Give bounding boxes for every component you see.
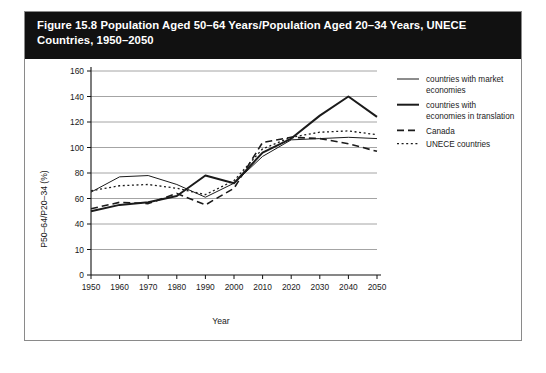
- y-tick-label: 60: [75, 194, 85, 204]
- y-tick-label: 160: [70, 66, 84, 76]
- figure-title-bar: Figure 15.8 Population Aged 50–64 Years/…: [25, 12, 521, 59]
- data-series-group: [91, 97, 377, 212]
- x-axis-ticks: 1950196019701980199020002010202020302040…: [82, 275, 387, 292]
- x-tick-label: 2000: [225, 282, 244, 292]
- x-tick-label: 2010: [253, 282, 272, 292]
- legend-label-3: UNECE countries: [426, 140, 490, 149]
- x-tick-label: 1980: [167, 282, 186, 292]
- legend-label-1: countries with: [426, 101, 477, 110]
- legend-label-0-line-2: economies: [426, 86, 466, 95]
- x-tick-label: 1990: [196, 282, 215, 292]
- y-tick-label: 40: [75, 219, 85, 229]
- legend-label-1-line-2: economies in translation: [426, 112, 515, 121]
- x-tick-label: 2050: [368, 282, 387, 292]
- axis-lines: [91, 67, 381, 275]
- x-tick-label: 2040: [339, 282, 358, 292]
- series-line-1: [91, 97, 377, 212]
- y-gridlines: [91, 71, 377, 250]
- chart-plot-area: 010406080100120140160 195019601970198019…: [25, 59, 521, 340]
- figure-title-line-2: Countries, 1950–2050: [37, 33, 509, 48]
- y-axis-title: P50–64/P20–34 (%): [39, 170, 49, 248]
- y-axis-ticks: 010406080100120140160: [70, 66, 91, 280]
- chart-legend: countries with marketeconomiescountries …: [397, 75, 515, 149]
- y-tick-label: 140: [70, 92, 84, 102]
- x-tick-label: 1950: [82, 282, 101, 292]
- y-tick-label: 10: [75, 245, 85, 255]
- legend-label-0: countries with market: [426, 75, 504, 84]
- x-axis-title: Year: [212, 316, 230, 326]
- y-tick-label: 0: [79, 270, 84, 280]
- x-tick-label: 2030: [310, 282, 329, 292]
- x-tick-label: 1970: [139, 282, 158, 292]
- y-tick-label: 120: [70, 117, 84, 127]
- x-tick-label: 1960: [110, 282, 129, 292]
- figure-title-line-1: Figure 15.8 Population Aged 50–64 Years/…: [37, 18, 509, 33]
- x-tick-label: 2020: [282, 282, 301, 292]
- legend-label-2: Canada: [426, 127, 455, 136]
- series-line-0: [91, 137, 377, 197]
- y-tick-label: 80: [75, 168, 85, 178]
- line-chart: 010406080100120140160 195019601970198019…: [25, 59, 521, 340]
- figure-root: Figure 15.8 Population Aged 50–64 Years/…: [0, 0, 546, 373]
- figure-frame: Figure 15.8 Population Aged 50–64 Years/…: [24, 11, 522, 341]
- y-tick-label: 100: [70, 143, 84, 153]
